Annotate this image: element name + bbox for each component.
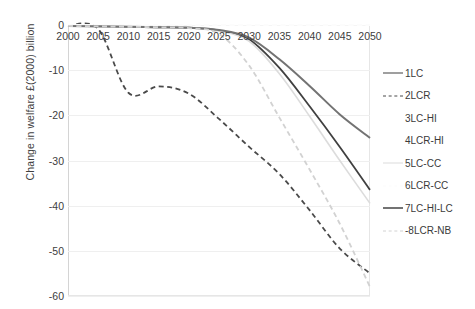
x-tick-label: 2045 [328,30,351,42]
x-tick-label: 2000 [56,30,79,42]
legend-label: 7LC-HI-LC [405,203,453,214]
y-tick-label: -40 [20,200,64,212]
legend-label: 1LC [405,68,423,79]
legend-swatch-icon [383,136,403,146]
legend-item-7LC-HI-LC[interactable]: 7LC-HI-LC [383,197,475,220]
legend-swatch-icon [383,181,403,191]
x-tick-label: 2035 [268,30,291,42]
series-line-8LCR-NB [68,26,370,287]
gridline [68,296,370,297]
legend-item-2LCR[interactable]: 2LCR [383,85,475,108]
legend: 1LC2LCR3LC-HI4LCR-HI5LC-CC6LCR-CC7LC-HI-… [383,62,475,242]
x-tick-label: 2050 [358,30,381,42]
y-tick-label: -20 [20,109,64,121]
series-lines [68,25,370,296]
legend-item-6LCR-CC[interactable]: 6LCR-CC [383,175,475,198]
x-tick-label: 2015 [147,30,170,42]
y-tick-label: -10 [20,64,64,76]
legend-item-3LC-HI[interactable]: 3LC-HI [383,107,475,130]
legend-item-4LCR-HI[interactable]: 4LCR-HI [383,130,475,153]
legend-item-1LC[interactable]: 1LC [383,62,475,85]
y-tick-label: -30 [20,155,64,167]
legend-swatch-icon [383,113,403,123]
legend-swatch-icon [383,226,403,236]
x-tick-label: 2030 [238,30,261,42]
legend-swatch-icon [383,158,403,168]
y-axis-title: Change in welfare £(2000) billion [24,0,36,212]
legend-label: 4LCR-HI [405,135,444,146]
legend-item-5LC-CC[interactable]: 5LC-CC [383,152,475,175]
legend-label: -8LCR-NB [405,225,451,236]
series-line-1LC [68,26,370,190]
legend-label: 6LCR-CC [405,180,448,191]
plot-area [68,25,370,296]
legend-label: 2LCR [405,90,431,101]
x-tick-label: 2020 [177,30,200,42]
legend-label: 3LC-HI [405,113,437,124]
series-line-5LC-CC [68,26,370,204]
legend-item-8LCR-NB[interactable]: -8LCR-NB [383,220,475,243]
y-tick-label: -60 [20,290,64,302]
legend-swatch-icon [383,68,403,78]
x-tick-label: 2040 [298,30,321,42]
legend-label: 5LC-CC [405,158,441,169]
welfare-change-line-chart: Change in welfare £(2000) billion 0-10-2… [0,0,475,309]
y-tick-label: -50 [20,245,64,257]
series-line-2LCR [68,23,370,273]
x-tick-label: 2005 [87,30,110,42]
legend-swatch-icon [383,203,403,213]
legend-swatch-icon [383,91,403,101]
x-tick-label: 2010 [117,30,140,42]
series-line-7LC-HI-LC [68,26,370,138]
x-tick-label: 2025 [207,30,230,42]
